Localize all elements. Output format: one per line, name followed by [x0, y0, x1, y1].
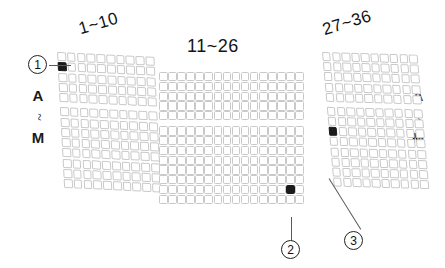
grid-cell: [59, 93, 68, 103]
grid-cell: [343, 73, 352, 82]
grid-cell: [80, 118, 89, 128]
grid-cell: [204, 165, 213, 174]
grid-cell: [168, 82, 177, 91]
grid-cell: [68, 73, 77, 83]
grid-cell: [81, 129, 90, 139]
grid-cell: [400, 179, 409, 188]
grid-cell: [411, 75, 420, 84]
grid-cell: [286, 72, 295, 81]
grid-cell: [354, 93, 363, 102]
grid-cell: [286, 156, 295, 165]
grid-cell: [117, 75, 126, 85]
callout-1-label: 1: [34, 59, 41, 71]
grid-cell: [97, 64, 106, 74]
grid-cell: [419, 170, 428, 179]
grid-cell: [57, 52, 66, 62]
grid-cell: [101, 150, 110, 160]
grid-cell: [118, 96, 127, 106]
grid-cell: [286, 101, 295, 110]
grid-cell: [64, 179, 73, 189]
grid-cell: [223, 126, 232, 135]
grid-cell: [417, 150, 426, 159]
grid-cell: [399, 54, 408, 63]
grid-cell: [277, 175, 286, 184]
grid-cell: [336, 107, 345, 116]
grid-cell: [250, 136, 259, 145]
grid-cell: [146, 77, 155, 87]
grid-cell: [186, 165, 195, 174]
grid-cell: [131, 162, 140, 172]
grid-cell: [380, 169, 389, 178]
grid-cell: [259, 195, 268, 204]
grid-block-middle-inner: [159, 72, 304, 204]
grid-cell: [97, 74, 106, 84]
grid-cell: [389, 159, 398, 168]
grid-cell: [295, 111, 304, 120]
grid-cell: [371, 63, 380, 72]
grid-row: [333, 178, 429, 190]
grid-cell: [204, 82, 213, 91]
grid-row: [159, 136, 304, 145]
grid-cell: [78, 73, 87, 83]
grid-cell: [405, 119, 414, 128]
grid-cell: [268, 101, 277, 110]
grid-cell: [370, 158, 379, 167]
grid-cell: [204, 195, 213, 204]
callout-1: 1: [28, 55, 47, 74]
grid-cell: [358, 138, 367, 147]
grid-cell: [286, 175, 295, 184]
grid-cell: [241, 111, 250, 120]
grid-cell: [214, 165, 223, 174]
grid-cell: [241, 175, 250, 184]
grid-cell: [268, 72, 277, 81]
grid-cell: [351, 168, 360, 177]
grid-cell: [335, 93, 344, 102]
grid-cell: [73, 179, 82, 189]
grid-cell: [342, 63, 351, 72]
grid-cell: [111, 151, 120, 161]
grid-cell: [214, 111, 223, 120]
callout-1-leader: [49, 65, 71, 66]
grid-cell: [159, 82, 168, 91]
grid-cell: [177, 82, 186, 91]
grid-cell: [177, 72, 186, 81]
grid-cell: [337, 117, 346, 126]
grid-cell: [346, 107, 355, 116]
grid-cell: [250, 126, 259, 135]
grid-cell: [93, 170, 102, 180]
grid-cell: [339, 137, 348, 146]
grid-cell: [159, 146, 168, 155]
grid-cell: [241, 156, 250, 165]
grid-cell: [241, 126, 250, 135]
grid-cell: [370, 53, 379, 62]
grid-cell: [295, 136, 304, 145]
grid-cell: [159, 165, 168, 174]
grid-cell: [223, 72, 232, 81]
grid-cell: [195, 82, 204, 91]
grid-cell: [223, 195, 232, 204]
grid-cell: [101, 140, 110, 150]
grid-cell: [354, 83, 363, 92]
grid-cell: [357, 128, 366, 137]
grid-cell: [241, 165, 250, 174]
grid-row: [159, 82, 304, 91]
grid-cell: [232, 126, 241, 135]
grid-cell: [214, 146, 223, 155]
grid-cell: [81, 139, 90, 149]
grid-cell: [232, 146, 241, 155]
grid-cell: [126, 55, 135, 65]
grid-cell: [396, 129, 405, 138]
grid-cell: [168, 101, 177, 110]
grid-cell: [88, 74, 97, 84]
grid-cell: [295, 126, 304, 135]
grid-cell: [326, 93, 335, 102]
grid-cell: [232, 185, 241, 194]
grid-cell: [332, 52, 341, 61]
grid-cell: [214, 82, 223, 91]
grid-cell: [379, 148, 388, 157]
grid-cell: [268, 165, 277, 174]
grid-cell: [214, 136, 223, 145]
grid-cell: [107, 75, 116, 85]
grid-cell: [400, 169, 409, 178]
grid-cell: [295, 101, 304, 110]
